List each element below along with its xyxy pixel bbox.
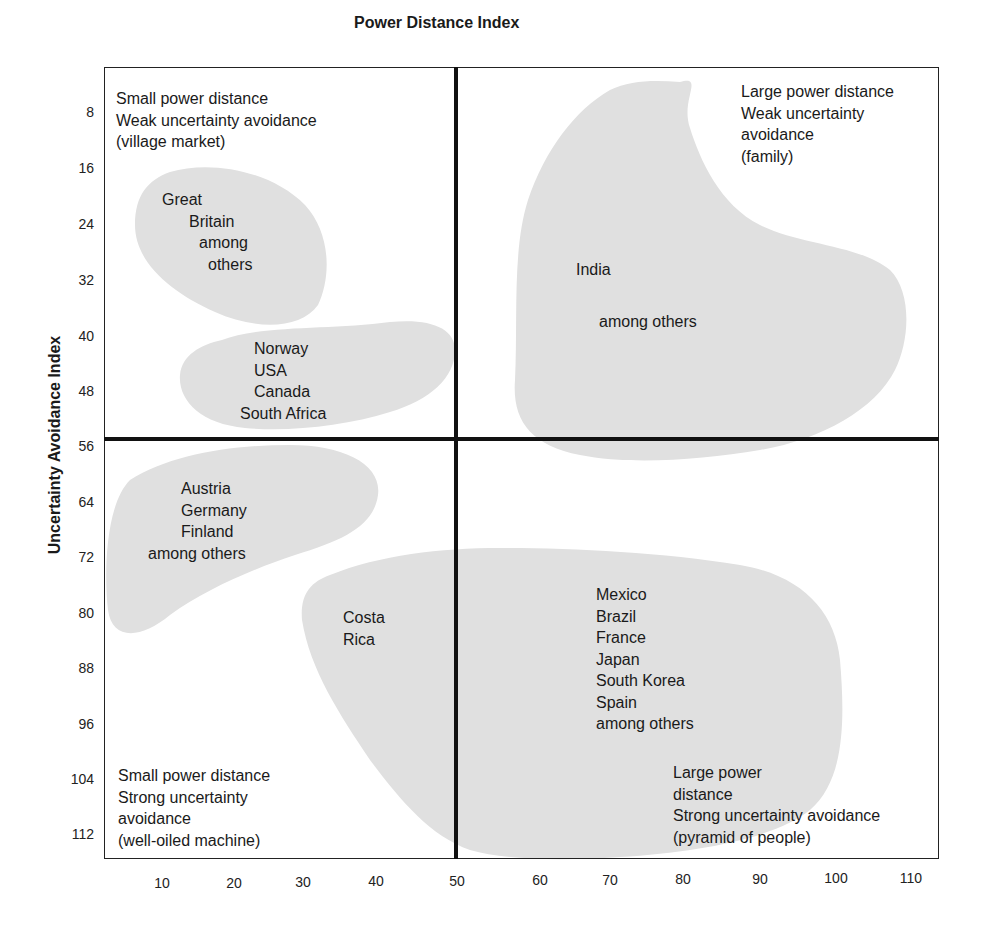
quadrant-label-bottom-left: Small power distance Strong uncertainty … — [118, 765, 270, 851]
x-tick: 10 — [142, 875, 182, 891]
x-tick: 80 — [663, 871, 703, 887]
y-tick: 56 — [54, 438, 94, 454]
horizontal-divider-uai-55 — [104, 437, 939, 441]
cluster-label-austria-germany: Austria Germany Finland among others — [148, 478, 247, 564]
cluster-label-line: Germany — [148, 500, 247, 522]
cluster-label-line: USA — [240, 360, 326, 382]
cluster-label-line: Spain — [596, 692, 694, 714]
cluster-label-line: Norway — [240, 338, 326, 360]
cluster-label-norway-usa: Norway USA Canada South Africa — [240, 338, 326, 424]
y-tick: 112 — [54, 826, 94, 842]
cluster-label-costa-rica: Costa Rica — [343, 607, 385, 650]
y-tick: 72 — [54, 549, 94, 565]
cluster-label-line: South Africa — [240, 403, 326, 425]
x-tick: 40 — [356, 873, 396, 889]
quadrant-label-line: Strong uncertainty avoidance — [673, 805, 880, 827]
quadrant-label-line: (family) — [741, 146, 894, 168]
cluster-label-line: Rica — [343, 629, 385, 651]
vertical-divider-pdi-50 — [454, 67, 458, 859]
cluster-label-line: Austria — [148, 478, 247, 500]
x-tick: 70 — [590, 872, 630, 888]
cluster-label-line: India — [576, 259, 611, 281]
y-tick: 40 — [54, 328, 94, 344]
quadrant-label-line: (village market) — [116, 131, 317, 153]
cluster-label-line: Brazil — [596, 606, 694, 628]
y-tick: 24 — [54, 216, 94, 232]
cluster-label-line: South Korea — [596, 670, 694, 692]
x-tick: 90 — [740, 871, 780, 887]
quadrant-label-bottom-right: Large power distance Strong uncertainty … — [673, 762, 880, 848]
x-tick: 100 — [816, 870, 856, 886]
y-tick: 16 — [54, 160, 94, 176]
y-tick: 32 — [54, 272, 94, 288]
y-tick: 48 — [54, 383, 94, 399]
cluster-label-great-britain: Great Britain among others — [162, 189, 252, 275]
quadrant-label-line: Large power — [673, 762, 880, 784]
x-tick: 110 — [891, 870, 931, 886]
quadrant-label-top-right: Large power distance Weak uncertainty av… — [741, 81, 894, 167]
quadrant-label-line: Weak uncertainty — [741, 103, 894, 125]
x-tick: 50 — [437, 873, 477, 889]
y-tick: 64 — [54, 494, 94, 510]
y-tick: 96 — [54, 716, 94, 732]
quadrant-label-line: avoidance — [741, 124, 894, 146]
plot-frame — [104, 67, 939, 859]
cluster-label-line: Costa — [343, 607, 385, 629]
y-tick: 80 — [54, 605, 94, 621]
cluster-label-india-among-others: among others — [599, 311, 697, 333]
quadrant-label-top-left: Small power distance Weak uncertainty av… — [116, 88, 317, 153]
quadrant-label-line: distance — [673, 784, 880, 806]
cluster-label-mexico-brazil: Mexico Brazil France Japan South Korea S… — [596, 584, 694, 735]
cluster-label-line: among others — [148, 543, 247, 565]
quadrant-label-line: Large power distance — [741, 81, 894, 103]
quadrant-label-line: Strong uncertainty — [118, 787, 270, 809]
cluster-label-line: Japan — [596, 649, 694, 671]
cluster-label-line: Britain — [162, 211, 252, 233]
cluster-label-line: among others — [596, 713, 694, 735]
quadrant-label-line: (pyramid of people) — [673, 827, 880, 849]
x-tick: 30 — [283, 874, 323, 890]
quadrant-label-line: avoidance — [118, 808, 270, 830]
quadrant-label-line: (well-oiled machine) — [118, 830, 270, 852]
quadrant-label-line: Small power distance — [116, 88, 317, 110]
cluster-label-line: France — [596, 627, 694, 649]
y-tick: 104 — [54, 771, 94, 787]
x-tick: 20 — [214, 875, 254, 891]
cluster-label-line: others — [162, 254, 252, 276]
cluster-label-line: Mexico — [596, 584, 694, 606]
x-axis-title: Power Distance Index — [354, 14, 519, 32]
cluster-label-line: among others — [599, 311, 697, 333]
cluster-label-line: Great — [162, 189, 252, 211]
cluster-label-line: Finland — [148, 521, 247, 543]
cluster-label-india: India — [576, 259, 611, 281]
quadrant-label-line: Weak uncertainty avoidance — [116, 110, 317, 132]
quadrant-label-line: Small power distance — [118, 765, 270, 787]
cluster-label-line: among — [162, 232, 252, 254]
x-tick: 60 — [520, 872, 560, 888]
y-tick: 88 — [54, 660, 94, 676]
y-tick: 8 — [54, 104, 94, 120]
cluster-label-line: Canada — [240, 381, 326, 403]
